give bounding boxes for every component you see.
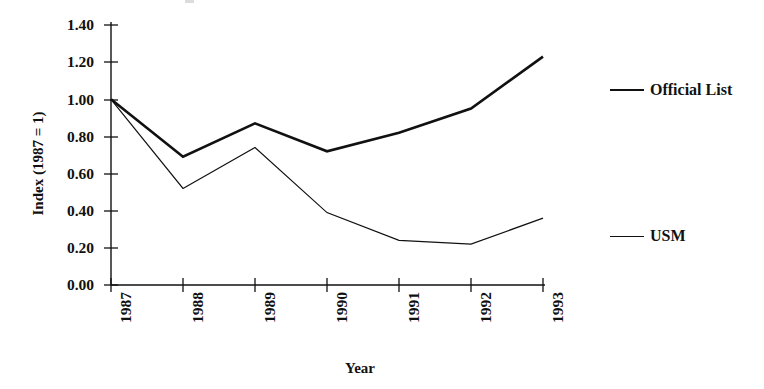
x-axis-title: Year (300, 360, 420, 377)
legend-label: Official List (650, 82, 732, 98)
x-tick-label: 1991 (406, 292, 422, 323)
x-tick-label: 1987 (118, 292, 134, 323)
scan-artifact (185, 0, 194, 3)
chart-canvas (0, 0, 764, 389)
series-line-usm (111, 99, 543, 244)
legend-line-swatch-icon (610, 89, 644, 91)
x-tick-label: 1992 (478, 292, 494, 323)
legend-line-swatch-icon (610, 236, 644, 237)
legend-label: USM (650, 228, 686, 244)
x-tick-label: 1990 (334, 292, 350, 323)
y-tick-label: 0.00 (34, 277, 94, 293)
x-tick-label: 1988 (190, 292, 206, 323)
x-tick-label: 1989 (262, 292, 278, 323)
y-tick-label: 1.40 (34, 17, 94, 33)
series-line-official-list (111, 57, 543, 157)
legend-item-official-list: Official List (610, 82, 732, 98)
legend-item-usm: USM (610, 228, 686, 244)
y-axis-title: Index (1987 = 1) (30, 64, 47, 264)
x-tick-label: 1993 (550, 292, 566, 323)
line-chart: 1.40 1.20 1.00 0.80 0.60 0.40 0.20 0.00 … (0, 0, 764, 389)
